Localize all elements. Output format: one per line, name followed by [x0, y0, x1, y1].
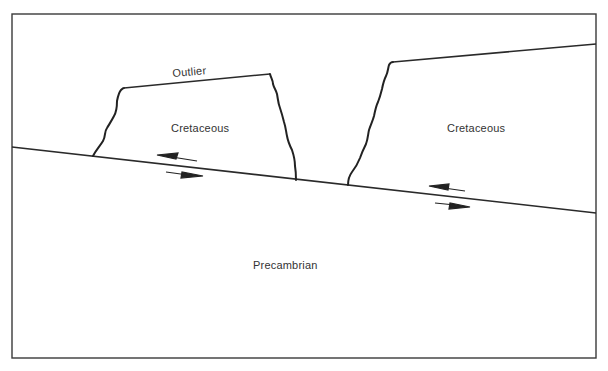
- arrow-left-icon: [157, 153, 197, 161]
- label-precambrian: Precambrian: [253, 259, 318, 271]
- label-cretaceous-outlier: Cretaceous: [171, 122, 229, 134]
- outlier-left-scarp: [93, 88, 124, 156]
- thrust-fault-line: [12, 147, 596, 213]
- cross-section-diagram: [0, 0, 608, 371]
- arrow-right-icon: [435, 203, 470, 209]
- main-block-top-surface: [393, 44, 596, 62]
- label-cretaceous-main: Cretaceous: [447, 122, 505, 134]
- arrow-right-icon: [166, 172, 203, 178]
- outlier-right-scarp: [270, 74, 296, 180]
- arrow-left-icon: [429, 184, 465, 191]
- main-block-scarp: [348, 62, 393, 185]
- diagram-frame: [12, 14, 596, 358]
